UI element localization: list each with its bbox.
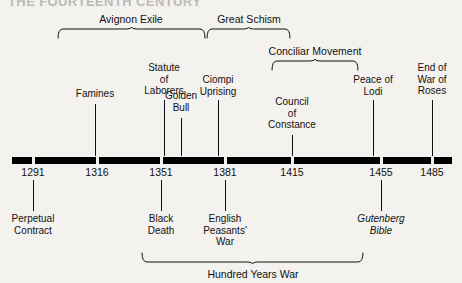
- event-leader-line: [292, 135, 293, 156]
- event-leader-line: [381, 180, 382, 211]
- axis-date-label: 1485: [420, 166, 443, 178]
- event-leader-line: [432, 100, 433, 156]
- figure-title: THE FOURTEENTH CENTURY: [8, 0, 201, 9]
- span-brace-above: [272, 58, 358, 70]
- span-brace-above: [207, 26, 290, 38]
- axis-gap: [32, 157, 35, 164]
- event-leader-line: [218, 100, 219, 156]
- event-label-below: Perpetual Contract: [12, 213, 55, 236]
- axis-date-label: 1316: [85, 166, 108, 178]
- axis-gap: [160, 157, 163, 164]
- axis-gap: [291, 157, 294, 164]
- axis-date-label: 1455: [369, 166, 392, 178]
- event-leader-line: [95, 104, 96, 156]
- span-label-below: Hundred Years War: [207, 268, 298, 280]
- event-leader-line: [181, 118, 182, 156]
- axis-gap: [431, 157, 434, 164]
- span-brace-above: [58, 26, 205, 38]
- span-label-above: Great Schism: [217, 13, 281, 25]
- span-brace-below: [142, 253, 363, 265]
- event-leader-line: [33, 180, 34, 211]
- event-label-below: English Peasants' War: [203, 213, 247, 248]
- event-label-below: Black Death: [148, 213, 175, 236]
- span-label-above: Avignon Exile: [99, 13, 162, 25]
- axis-date-label: 1415: [280, 166, 303, 178]
- axis-date-label: 1291: [21, 166, 44, 178]
- timeline-axis-bar: [12, 157, 452, 164]
- event-label-above: Council of Constance: [268, 96, 316, 131]
- event-label-above: Ciompi Uprising: [200, 74, 237, 97]
- axis-date-label: 1381: [213, 166, 236, 178]
- timeline-figure: THE FOURTEENTH CENTURY Avignon ExileGrea…: [0, 0, 462, 283]
- event-label-above: Peace of Lodi: [353, 74, 392, 97]
- axis-date-label: 1351: [149, 166, 172, 178]
- event-leader-line: [225, 180, 226, 211]
- event-leader-line: [161, 180, 162, 211]
- event-label-above: End of War of Roses: [417, 62, 446, 97]
- axis-gap: [380, 157, 383, 164]
- axis-gap: [96, 157, 99, 164]
- event-label-above: Golden Bull: [165, 90, 197, 113]
- event-label-above: Famines: [76, 88, 114, 100]
- axis-gap: [224, 157, 227, 164]
- event-leader-line: [373, 100, 374, 156]
- event-label-below: Gutenberg Bible: [357, 213, 404, 236]
- span-label-above: Conciliar Movement: [269, 45, 362, 57]
